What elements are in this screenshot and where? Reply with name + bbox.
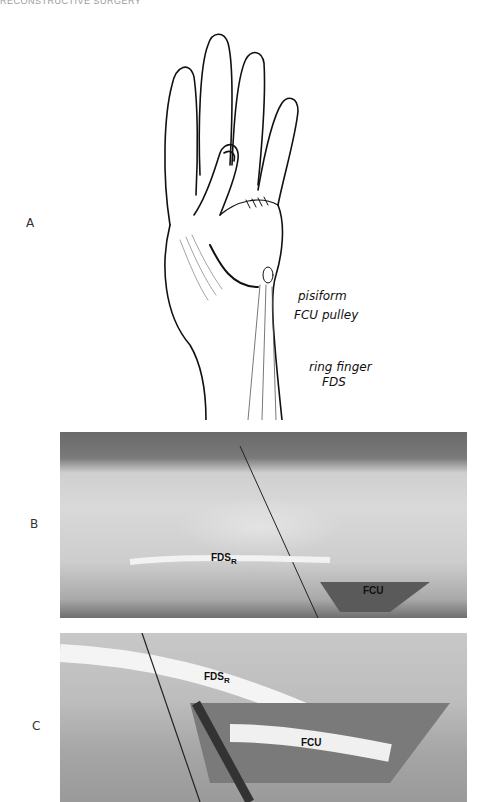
annotation-fds: FDS bbox=[322, 375, 346, 389]
photo-b-label-fcu: FCU bbox=[363, 585, 384, 596]
photo-c-label-fds-r: FDSR bbox=[204, 671, 230, 685]
annotation-pisiform: pisiform bbox=[298, 289, 347, 303]
running-header: RECONSTRUCTIVE SURGERY bbox=[0, 0, 141, 6]
panel-label-c: C bbox=[32, 719, 40, 733]
photo-panel-b: FDSR FCU bbox=[60, 432, 467, 618]
panel-label-b: B bbox=[30, 517, 38, 531]
photo-c-overlay bbox=[60, 633, 467, 802]
annotation-fcu-pulley: FCU pulley bbox=[294, 308, 358, 322]
panel-label-a: A bbox=[26, 216, 34, 230]
annotation-ring-finger: ring finger bbox=[309, 360, 372, 374]
photo-panel-c: FDSR FCU bbox=[60, 633, 467, 802]
photo-c-label-fcu: FCU bbox=[301, 737, 322, 748]
photo-b-overlay bbox=[60, 432, 467, 618]
photo-b-label-fds-r: FDSR bbox=[211, 552, 237, 566]
